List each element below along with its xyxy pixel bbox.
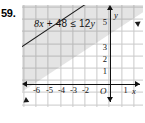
x-tick-label-neg6: -6 [30, 86, 43, 95]
x-axis-arrow-left [22, 81, 27, 87]
y-tick-label-2: 2 [98, 55, 107, 64]
inequality-constant: 48 [56, 18, 68, 29]
y-tick-label-3: 3 [98, 43, 107, 52]
problem-number: 59. [1, 7, 15, 19]
inequality-x-var: x [39, 18, 44, 29]
y-axis [110, 9, 111, 102]
y-tick-label-5: 5 [98, 18, 107, 27]
coordinate-graph: 8x + 48 ≤ 12y -6 -5 -4 -3 -2 1 5 3 2 1 O… [22, 5, 143, 107]
inequality-coef-y: 12 [79, 18, 91, 29]
inequality-plus: + [47, 18, 53, 29]
y-axis-label: y [114, 10, 118, 20]
y-tick-label-1: 1 [98, 67, 107, 76]
origin-label: O [100, 86, 107, 96]
x-axis-label: x [132, 86, 136, 96]
inequality-relation: ≤ [70, 18, 76, 29]
x-tick-label-neg2: -2 [79, 86, 92, 95]
x-tick-label-1: 1 [119, 86, 132, 95]
y-axis-arrow-top [107, 5, 113, 10]
inequality-annotation: 8x + 48 ≤ 12y [34, 18, 95, 29]
inequality-y-var: y [91, 18, 96, 29]
exercise-item: 59. 8x + 48 ≤ 12y -6 -5 -4 -3 -2 1 5 3 2… [0, 0, 145, 123]
y-axis-arrow-bottom [107, 97, 113, 102]
